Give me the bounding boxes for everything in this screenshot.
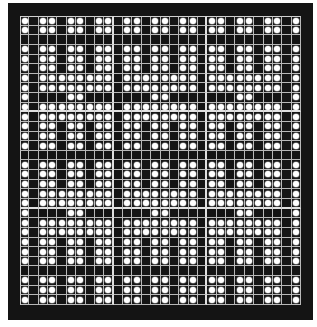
- dot-icon: [190, 56, 196, 62]
- grid-cell: [29, 93, 38, 103]
- grid-cell: [198, 228, 207, 238]
- grid-cell: [132, 189, 141, 199]
- grid-cell: [179, 141, 188, 151]
- grid-cell: [57, 160, 66, 170]
- grid-cell: [57, 228, 66, 238]
- grid-cell: [132, 93, 141, 103]
- dot-icon: [96, 114, 102, 120]
- grid-cell: [67, 93, 76, 103]
- grid-cell: [198, 238, 207, 248]
- grid-cell: [198, 160, 207, 170]
- grid-cell: [48, 64, 57, 74]
- dot-icon: [237, 181, 243, 187]
- dot-icon: [49, 181, 55, 187]
- dot-icon: [96, 56, 102, 62]
- grid-cell: [142, 209, 151, 219]
- dot-icon: [105, 191, 111, 197]
- dot-icon: [105, 200, 111, 206]
- grid-cell: [235, 112, 244, 122]
- dot-icon: [162, 249, 168, 255]
- grid-cell: [226, 189, 235, 199]
- dot-icon: [180, 229, 186, 235]
- grid-cell: [264, 170, 273, 180]
- grid-cell: [57, 218, 66, 228]
- dot-icon: [237, 114, 243, 120]
- grid-cell: [179, 74, 188, 84]
- grid-cell: [198, 64, 207, 74]
- grid-cell: [264, 238, 273, 248]
- grid-cell: [179, 199, 188, 209]
- grid-cell: [198, 93, 207, 103]
- grid-cell: [39, 83, 48, 93]
- grid-cell: [207, 276, 216, 286]
- grid-cell: [170, 103, 179, 113]
- grid-cell: [226, 103, 235, 113]
- grid-cell: [151, 83, 160, 93]
- grid-cell: [114, 132, 123, 142]
- grid-cell: [86, 295, 95, 305]
- grid-cell: [179, 218, 188, 228]
- grid-cell: [29, 266, 38, 276]
- grid-cell: [132, 55, 141, 65]
- grid-cell: [217, 26, 226, 36]
- grid-cell: [39, 228, 48, 238]
- dot-icon: [209, 171, 215, 177]
- grid-cell: [207, 180, 216, 190]
- dot-icon: [105, 114, 111, 120]
- grid-cell: [292, 199, 301, 209]
- dot-icon: [190, 65, 196, 71]
- grid-cell: [179, 295, 188, 305]
- dot-icon: [152, 210, 158, 216]
- grid-cell: [132, 295, 141, 305]
- grid-cell: [151, 35, 160, 45]
- dot-icon: [68, 277, 74, 283]
- grid-cell: [76, 295, 85, 305]
- dot-icon: [124, 65, 130, 71]
- dot-icon: [96, 181, 102, 187]
- grid-cell: [95, 189, 104, 199]
- grid-cell: [282, 218, 291, 228]
- grid-cell: [273, 189, 282, 199]
- grid-cell: [292, 55, 301, 65]
- grid-cell: [292, 74, 301, 84]
- grid-cell: [20, 218, 29, 228]
- dot-icon: [96, 65, 102, 71]
- grid-cell: [170, 132, 179, 142]
- grid-cell: [104, 209, 113, 219]
- dot-icon: [255, 114, 261, 120]
- grid-cell: [151, 112, 160, 122]
- grid-cell: [254, 180, 263, 190]
- grid-cell: [170, 151, 179, 161]
- dot-icon: [59, 200, 65, 206]
- grid-cell: [170, 141, 179, 151]
- grid-cell: [67, 170, 76, 180]
- dot-icon: [218, 104, 224, 110]
- dot-icon: [49, 258, 55, 264]
- dot-icon: [49, 143, 55, 149]
- grid-cell: [132, 209, 141, 219]
- dot-icon: [265, 46, 271, 52]
- dot-icon: [40, 27, 46, 33]
- dot-icon: [124, 229, 130, 235]
- grid-cell: [161, 170, 170, 180]
- grid-cell: [123, 45, 132, 55]
- dot-icon: [227, 114, 233, 120]
- dot-icon: [96, 258, 102, 264]
- grid-cell: [282, 35, 291, 45]
- dot-icon: [68, 258, 74, 264]
- grid-cell: [189, 74, 198, 84]
- dot-icon: [190, 162, 196, 168]
- dot-icon: [124, 191, 130, 197]
- dot-icon: [68, 210, 74, 216]
- grid-cell: [123, 238, 132, 248]
- dot-icon: [77, 85, 83, 91]
- dot-icon: [209, 46, 215, 52]
- grid-cell: [292, 295, 301, 305]
- dot-icon: [274, 65, 280, 71]
- grid-cell: [198, 286, 207, 296]
- grid-cell: [104, 286, 113, 296]
- grid-cell: [151, 55, 160, 65]
- dot-icon: [152, 220, 158, 226]
- grid-cell: [254, 74, 263, 84]
- grid-cell: [29, 180, 38, 190]
